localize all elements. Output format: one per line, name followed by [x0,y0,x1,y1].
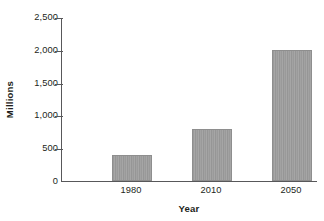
plot-area [61,18,317,182]
y-tick-label: 2,000 [12,46,58,55]
bar-2050 [272,50,312,181]
bar-1980 [112,155,152,181]
x-axis-title: Year [61,203,317,214]
y-axis-title: Millions [4,70,15,130]
y-tick-label: 1,000 [12,111,58,120]
y-tick-label: 500 [12,144,58,153]
x-tick-label-1980: 1980 [101,185,161,195]
y-tick-label: 2,500 [12,13,58,22]
bar-2010 [192,129,232,181]
y-tick-label: 1,500 [12,79,58,88]
x-tick-label-2010: 2010 [181,185,241,195]
bar-chart-figure: 2,500 2,000 1,500 1,000 500 0 Millions 1… [0,0,324,221]
x-tick-label-2050: 2050 [261,185,321,195]
y-tick-label: 0 [12,177,58,186]
